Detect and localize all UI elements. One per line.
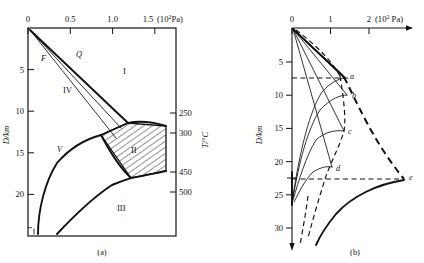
panel-b-x-ticks bbox=[292, 28, 369, 34]
panel-a-curve-Q bbox=[30, 30, 128, 123]
panel-a-x-unit: (102Pa) bbox=[157, 14, 183, 24]
panel-a-xtick-2: 1.0 bbox=[107, 14, 118, 24]
panel-a-label-II: II bbox=[131, 145, 137, 155]
panel-b-label-c: c bbox=[348, 127, 352, 136]
panel-a-x-ticks bbox=[28, 28, 155, 34]
panel-a-y-axis-title: D/km bbox=[1, 126, 11, 146]
panel-a-xtick-0: 0 bbox=[26, 14, 30, 24]
panel-b-ytick-5: 5 bbox=[279, 57, 283, 67]
panel-a-label-V: V bbox=[57, 145, 63, 154]
panel-b-x-unit: (102 Pa) bbox=[375, 14, 403, 24]
panel-a-label-III: III bbox=[117, 203, 126, 213]
panel-b-y-axis-title: D/km bbox=[254, 126, 264, 146]
panel-a-caption: (a) bbox=[97, 248, 107, 257]
panel-b-xtick-0: 0 bbox=[290, 14, 294, 24]
panel-b-ytick-25: 25 bbox=[274, 190, 283, 200]
panel-a-ytick-15: 15 bbox=[15, 148, 24, 158]
panel-b-ytick-10: 10 bbox=[274, 90, 283, 100]
panel-a-yr-500: 500 bbox=[179, 187, 192, 197]
panel-a-xtick-3: 1.5 bbox=[143, 14, 154, 24]
panel-a-y-right-ticks bbox=[170, 113, 176, 192]
panel-b-xtick-2: 2 bbox=[367, 14, 371, 24]
panel-a: 0 0.5 1.0 1.5 (102Pa) 5 10 15 20 D/km bbox=[1, 14, 210, 257]
panel-b-ytick-15: 15 bbox=[274, 123, 283, 133]
panel-b-label-d: d bbox=[336, 164, 341, 173]
panel-b-label-b: b bbox=[352, 91, 356, 100]
panel-a-curve-F bbox=[30, 30, 121, 128]
figure-root: 0 0.5 1.0 1.5 (102Pa) 5 10 15 20 D/km bbox=[0, 0, 424, 263]
panel-a-label-IV: IV bbox=[63, 85, 73, 95]
panel-a-curve-V bbox=[38, 135, 101, 234]
panel-a-xtick-1: 0.5 bbox=[65, 14, 76, 24]
figure-svg: 0 0.5 1.0 1.5 (102Pa) 5 10 15 20 D/km bbox=[0, 0, 424, 263]
panel-a-label-Q: Q bbox=[76, 50, 82, 59]
panel-b: 0 1 2 (102 Pa) 5 10 15 20 25 30 D/km bbox=[254, 14, 413, 257]
panel-b-lower-dashed-tail bbox=[300, 196, 308, 245]
panel-b-y-axis-arrow bbox=[289, 243, 294, 251]
panel-b-label-a: a bbox=[350, 72, 354, 81]
panel-b-ray-b bbox=[293, 29, 347, 95]
panel-b-lower-thick-curve bbox=[316, 180, 404, 245]
panel-a-ytick-5: 5 bbox=[20, 65, 24, 75]
panel-a-ytick-20: 20 bbox=[15, 189, 24, 199]
panel-b-ytick-20: 20 bbox=[274, 157, 283, 167]
panel-a-label-I: I bbox=[123, 66, 126, 76]
panel-a-label-F: F bbox=[40, 54, 47, 63]
panel-b-curve-d bbox=[294, 167, 332, 202]
panel-a-y-ticks bbox=[28, 70, 34, 228]
panel-a-yr-450: 450 bbox=[179, 167, 192, 177]
panel-a-yr-250: 250 bbox=[179, 108, 192, 118]
panel-a-ytick-10: 10 bbox=[15, 106, 24, 116]
panel-a-y-right-axis-title: T/°C bbox=[200, 132, 210, 149]
panel-a-curve-IV bbox=[30, 30, 116, 138]
panel-b-label-e: e bbox=[409, 173, 413, 182]
panel-b-xtick-1: 1 bbox=[328, 14, 332, 24]
panel-b-ray-c bbox=[293, 29, 344, 131]
panel-b-curve-a bbox=[293, 78, 344, 196]
panel-b-ytick-30: 30 bbox=[274, 223, 283, 233]
panel-b-caption: (b) bbox=[350, 248, 360, 257]
panel-a-yr-300: 300 bbox=[179, 128, 192, 138]
